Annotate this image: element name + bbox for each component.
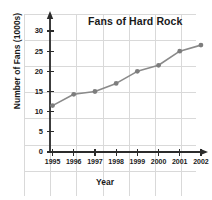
y-axis-arrow-icon (47, 11, 53, 19)
x-tick-label: 2001 (169, 158, 191, 165)
data-point (50, 103, 55, 108)
data-point (114, 81, 119, 86)
data-point (199, 43, 204, 48)
x-axis-arrow-icon (200, 149, 208, 155)
data-point (93, 89, 98, 94)
y-tick-label: 25 (27, 48, 43, 56)
chart-title: Fans of Hard Rock (88, 16, 182, 27)
y-tick-label: 20 (27, 68, 43, 76)
x-tick-label: 1998 (105, 158, 127, 165)
y-tick-label: 30 (27, 27, 43, 35)
data-series-line (53, 45, 201, 106)
y-axis-title-text: Number of Fans (1000s) (12, 13, 22, 109)
x-tick-label: 1995 (42, 158, 64, 165)
y-axis-title: Number of Fans (1000s) (6, 6, 24, 116)
x-axis-title: Year (96, 178, 114, 187)
data-point (71, 92, 76, 97)
x-tick-label: 1999 (126, 158, 148, 165)
data-point (156, 63, 161, 68)
x-tick-label: 1996 (63, 158, 85, 165)
y-tick-label: 15 (27, 88, 43, 96)
data-point (135, 69, 140, 74)
y-tick-label: 10 (27, 108, 43, 116)
data-point-markers (50, 43, 203, 108)
y-tick-label: 0 (27, 148, 43, 156)
x-tick-label: 2002 (190, 158, 212, 165)
x-tick-label: 2000 (148, 158, 170, 165)
data-point (177, 49, 182, 54)
y-tick-label: 5 (27, 128, 43, 136)
chart-figure: Fans of Hard Rock Number of Fans (1000s)… (0, 0, 212, 200)
x-tick-label: 1997 (84, 158, 106, 165)
